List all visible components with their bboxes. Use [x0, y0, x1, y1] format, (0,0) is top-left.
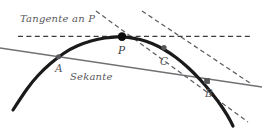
point-label-p: P — [118, 45, 125, 56]
secant-line-ab — [0, 48, 262, 87]
tangent-secant-diagram: Tangente an P Sekante P A B C — [0, 0, 262, 129]
point-marker-b — [204, 78, 210, 84]
secant-label: Sekante — [70, 72, 113, 82]
tangent-label: Tangente an P — [20, 14, 95, 24]
point-marker-a — [56, 54, 61, 59]
point-marker-p — [118, 32, 127, 41]
dashed-secant-line-pc — [96, 11, 248, 122]
point-label-c: C — [160, 56, 168, 67]
point-marker-c — [161, 45, 166, 50]
point-label-b: B — [205, 88, 213, 99]
point-label-a: A — [55, 63, 63, 74]
